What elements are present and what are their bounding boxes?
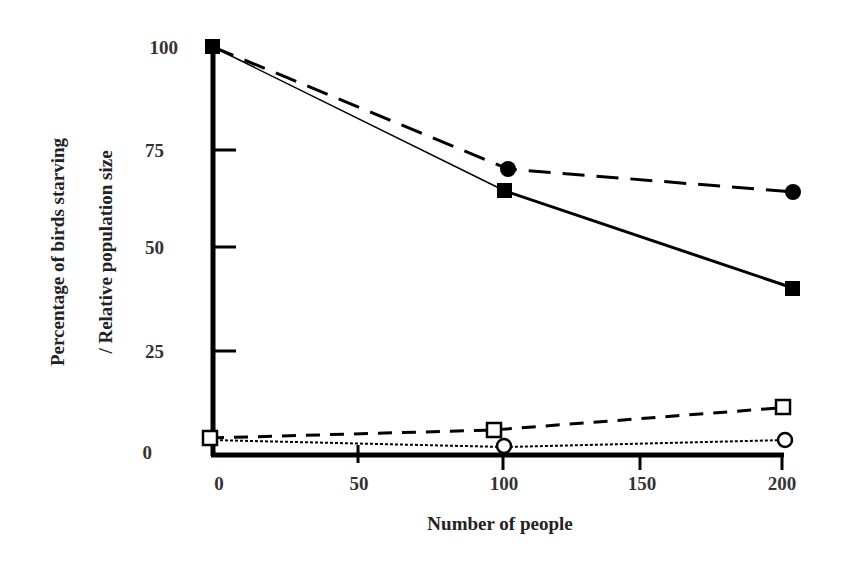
y-tick-label: 0: [143, 442, 153, 463]
x-tick-label: 0: [214, 473, 224, 494]
marker-open-square: [487, 423, 501, 437]
y-axis-title-line2: / Relative population size: [95, 150, 116, 354]
marker-filled-square: [205, 39, 220, 54]
chart: Percentage of birds starving / Relative …: [0, 0, 842, 569]
series-filled-square-line: [213, 47, 505, 191]
x-axis-title: Number of people: [427, 513, 572, 534]
y-tick-label: 75: [145, 140, 164, 161]
x-tick-label: 50: [350, 473, 369, 494]
marker-open-circle: [497, 439, 511, 453]
x-tick-label: 200: [768, 473, 797, 494]
marker-filled-square: [497, 183, 512, 198]
x-tick-label: 100: [490, 473, 519, 494]
y-tick-label: 100: [150, 37, 179, 58]
marker-open-circle: [778, 433, 792, 447]
marker-filled-circle: [500, 161, 516, 177]
y-axis-title-line1: Percentage of birds starving: [47, 137, 68, 366]
x-tick-label: 150: [628, 473, 657, 494]
marker-open-square: [203, 431, 217, 445]
series-filled-square-line: [505, 191, 793, 288]
marker-filled-circle: [785, 184, 801, 200]
marker-filled-square: [785, 281, 800, 296]
marker-open-square: [776, 400, 790, 414]
y-tick-label: 25: [145, 341, 164, 362]
y-tick-label: 50: [145, 237, 164, 258]
